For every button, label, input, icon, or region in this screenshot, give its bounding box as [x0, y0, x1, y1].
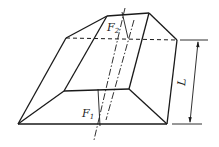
- label-L: L: [175, 78, 189, 88]
- label-F2: F2: [106, 21, 120, 35]
- hidden-edge: [66, 38, 177, 40]
- frustum-diagram: F2 F1 L: [0, 0, 219, 147]
- frustum-outline: [18, 13, 177, 124]
- label-F1: F1: [81, 107, 94, 121]
